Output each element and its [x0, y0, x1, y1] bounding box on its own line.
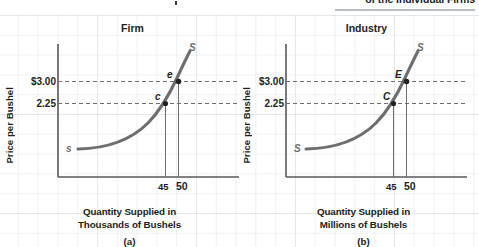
- point-C-label-industry: C: [383, 91, 390, 102]
- supply-curve-label-bottom-industry: S: [294, 143, 301, 154]
- supply-curve-label-top-firm: S: [189, 42, 196, 53]
- x-axis-label-line2-industry: Millions of Bushels: [240, 219, 479, 232]
- x-tick-label-45-firm: 45: [158, 181, 169, 192]
- panel-letter-firm: (a): [0, 236, 239, 247]
- y-tick-label-300-firm: $3.00: [8, 76, 56, 87]
- header-rule: [335, 9, 475, 11]
- y-tick-label-300-industry: $3.00: [236, 76, 284, 87]
- point-c-marker-firm: [163, 101, 168, 106]
- x-axis-label-line1-firm: Quantity Supplied in: [0, 206, 239, 219]
- point-E-label-industry: E: [395, 69, 402, 80]
- supply-curve-firm: [78, 51, 190, 149]
- x-axis-label-line2-firm: Thousands of Bushels: [0, 219, 239, 232]
- point-E-marker-industry: [404, 79, 410, 85]
- chart-panel-industry: Industry Price per Bushel $3.00 2.25 45 …: [240, 15, 479, 247]
- point-e-label-firm: e: [167, 69, 173, 80]
- y-tick-label-225-firm: 2.25: [8, 98, 56, 109]
- point-e-marker-firm: [176, 79, 182, 85]
- header-tick-mark: [175, 1, 177, 5]
- x-tick-label-50-firm: 50: [176, 180, 188, 192]
- x-axis-label-firm: Quantity Supplied in Thousands of Bushel…: [0, 206, 239, 231]
- panel-letter-industry: (b): [240, 236, 479, 247]
- x-tick-label-45-industry: 45: [386, 181, 397, 192]
- supply-curve-label-bottom-firm: s: [66, 143, 72, 154]
- x-axis-label-line1-industry: Quantity Supplied in: [240, 206, 479, 219]
- point-c-label-firm: c: [155, 91, 161, 102]
- point-C-marker-industry: [391, 101, 396, 106]
- supply-curve-industry: [306, 51, 418, 149]
- chart-panel-firm: Firm Price per Bushel $3.00 2.25 45 50 S…: [0, 15, 239, 247]
- x-axis-label-industry: Quantity Supplied in Millions of Bushels: [240, 206, 479, 231]
- supply-curve-label-top-industry: S: [417, 42, 424, 53]
- y-tick-label-225-industry: 2.25: [236, 98, 284, 109]
- header-caption: of the Individual Firms: [365, 0, 475, 5]
- x-tick-label-50-industry: 50: [404, 180, 416, 192]
